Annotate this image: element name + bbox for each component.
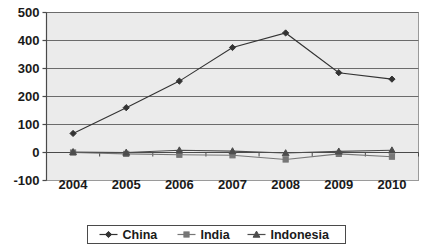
y-axis-tick-label: 500 xyxy=(18,5,40,20)
y-axis-tick-label: 300 xyxy=(18,61,40,76)
y-axis-tick-label: 0 xyxy=(32,145,39,160)
x-axis-tick-label: 2010 xyxy=(377,177,406,192)
x-axis-tick-label: 2007 xyxy=(218,177,247,192)
data-point-marker xyxy=(389,154,394,159)
chart-canvas: -100010020030040050020042005200620072008… xyxy=(0,0,431,251)
y-axis-tick-label: 200 xyxy=(18,89,40,104)
x-axis-tick-label: 2008 xyxy=(271,177,300,192)
y-axis-tick-label: 400 xyxy=(18,33,40,48)
legend-marker-square-icon xyxy=(184,232,189,237)
legend-label: India xyxy=(201,228,231,242)
x-axis-tick-label: 2004 xyxy=(59,177,89,192)
x-axis-tick-label: 2005 xyxy=(112,177,141,192)
y-axis: -1000100200300400500 xyxy=(13,5,46,188)
y-axis-tick-label: -100 xyxy=(13,173,39,188)
legend-label: China xyxy=(123,228,159,242)
x-axis-tick-label: 2006 xyxy=(165,177,194,192)
data-point-marker xyxy=(283,157,288,162)
x-axis-tick-label: 2009 xyxy=(324,177,353,192)
legend: ChinaIndiaIndonesia xyxy=(88,226,346,244)
y-axis-tick-label: 100 xyxy=(18,117,40,132)
legend-label: Indonesia xyxy=(271,228,330,242)
line-chart: -100010020030040050020042005200620072008… xyxy=(0,0,431,251)
